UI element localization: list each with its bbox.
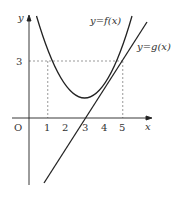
g-label: y=g(x)	[136, 41, 171, 52]
guide-lines	[29, 61, 123, 118]
axes	[12, 15, 152, 185]
x-tick-2: 2	[62, 122, 68, 133]
y-axis-label: y	[17, 12, 24, 23]
curve-f	[37, 16, 133, 98]
x-tick-4: 4	[101, 122, 107, 133]
y-tick-3: 3	[16, 56, 22, 67]
x-tick-1: 1	[44, 122, 50, 133]
x-axis-label: x	[145, 121, 151, 132]
x-tick-5: 5	[119, 122, 125, 133]
f-label: y=f(x)	[89, 15, 121, 26]
curve-g	[44, 22, 147, 183]
function-graph: y x O 3 1 2 3 4 5 y=f(x) y=g(x)	[0, 0, 175, 200]
x-tick-3: 3	[82, 122, 88, 133]
origin-label: O	[14, 122, 22, 133]
